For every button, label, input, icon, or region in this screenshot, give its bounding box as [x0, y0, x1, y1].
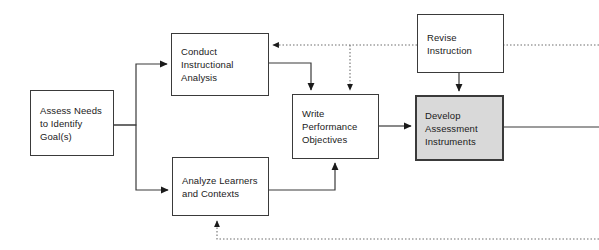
flowchart-diagram: Assess Needs to Identify Goal(s) Conduct… — [0, 0, 599, 250]
node-write-performance-objectives[interactable]: Write Performance Objectives — [292, 94, 379, 159]
node-revise-instruction-label: Revise Instruction — [418, 31, 476, 57]
connector-analyze-to-write — [269, 163, 335, 190]
node-develop-assessment-instruments-label: Develop Assessment Instruments — [417, 109, 482, 148]
node-assess-needs-label: Assess Needs to Identify Goal(s) — [31, 104, 106, 143]
node-conduct-instructional-analysis-label: Conduct Instructional Analysis — [172, 45, 238, 84]
connector-bottom-feedback-to-analyze — [217, 221, 599, 239]
connector-assess-to-analyze — [114, 125, 168, 190]
connector-assess-to-conduct — [114, 64, 167, 125]
node-conduct-instructional-analysis[interactable]: Conduct Instructional Analysis — [171, 33, 269, 96]
node-analyze-learners-and-contexts[interactable]: Analyze Learners and Contexts — [172, 157, 269, 216]
node-write-performance-objectives-label: Write Performance Objectives — [293, 107, 361, 146]
node-develop-assessment-instruments[interactable]: Develop Assessment Instruments — [415, 95, 504, 161]
node-assess-needs[interactable]: Assess Needs to Identify Goal(s) — [30, 90, 114, 156]
node-analyze-learners-and-contexts-label: Analyze Learners and Contexts — [173, 174, 262, 200]
node-revise-instruction[interactable]: Revise Instruction — [417, 14, 504, 73]
connector-conduct-to-write — [269, 63, 311, 90]
